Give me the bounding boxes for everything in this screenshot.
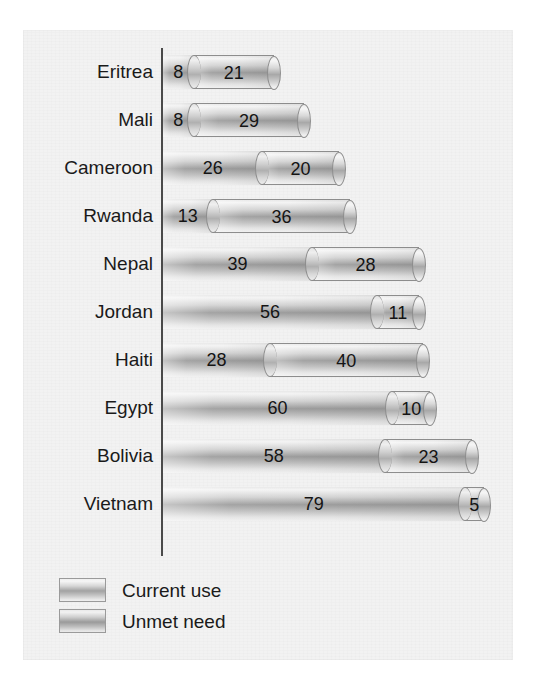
bar-row: Mali829 (23, 96, 513, 144)
legend-item-current-use: Current use (59, 575, 359, 606)
bar-segment-unmet-need: 11 (377, 295, 419, 329)
legend-swatch-unmet-need (59, 609, 106, 633)
bar-value-unmet-need: 23 (385, 440, 473, 474)
bar-row: Haiti2840 (23, 336, 513, 384)
category-label: Rwanda (83, 192, 161, 240)
bar-segment-current-use: 28 (163, 343, 270, 377)
bar-segment-unmet-need: 40 (270, 343, 423, 377)
bar-segment-current-use: 39 (163, 247, 312, 281)
category-label: Vietnam (84, 480, 161, 528)
bar-row: Jordan5611 (23, 288, 513, 336)
bar-value-current-use: 28 (163, 343, 270, 377)
bar-segment-unmet-need: 10 (392, 391, 430, 425)
bar-value-unmet-need: 40 (270, 344, 423, 378)
legend-label-unmet-need: Unmet need (122, 606, 226, 637)
chart-legend: Current use Unmet need (59, 575, 359, 637)
category-label: Bolivia (97, 432, 161, 480)
bar-segment-unmet-need: 20 (262, 151, 338, 185)
bar-row: Eritrea821 (23, 48, 513, 96)
bar-value-unmet-need: 21 (194, 56, 274, 90)
bar-segment-current-use: 60 (163, 391, 392, 425)
bar-value-unmet-need: 20 (262, 152, 338, 186)
bar-segment-current-use: 56 (163, 295, 377, 329)
bar-row: Egypt6010 (23, 384, 513, 432)
bar-value-current-use: 60 (163, 391, 392, 425)
legend-swatch-current-use (59, 578, 106, 602)
bar-segment-unmet-need: 21 (194, 55, 274, 89)
bar-value-current-use: 39 (163, 247, 312, 281)
bar-segment-unmet-need: 23 (385, 439, 473, 473)
category-label: Mali (118, 96, 161, 144)
legend-item-unmet-need: Unmet need (59, 606, 359, 637)
bar-segment-unmet-need: 5 (465, 487, 484, 521)
bar-value-unmet-need: 28 (312, 248, 419, 282)
bar-value-unmet-need: 10 (392, 392, 430, 426)
bar-row: Bolivia5823 (23, 432, 513, 480)
bar-segment-unmet-need: 29 (194, 103, 305, 137)
chart-figure: Eritrea821Mali829Cameroon2620Rwanda1336N… (23, 30, 513, 660)
legend-label-current-use: Current use (122, 575, 221, 606)
category-label: Nepal (103, 240, 161, 288)
bar-row: Cameroon2620 (23, 144, 513, 192)
bar-value-current-use: 26 (163, 151, 262, 185)
bar-row: Vietnam795 (23, 480, 513, 528)
bar-value-current-use: 56 (163, 295, 377, 329)
bar-value-current-use: 79 (163, 487, 465, 521)
bar-value-current-use: 58 (163, 439, 385, 473)
bar-value-unmet-need: 36 (213, 200, 351, 234)
bar-segment-unmet-need: 36 (213, 199, 351, 233)
category-label: Egypt (104, 384, 161, 432)
bar-value-unmet-need: 29 (194, 104, 305, 138)
bar-row: Rwanda1336 (23, 192, 513, 240)
bar-row: Nepal3928 (23, 240, 513, 288)
plot-area: Eritrea821Mali829Cameroon2620Rwanda1336N… (23, 30, 513, 560)
bar-segment-current-use: 79 (163, 487, 465, 521)
bar-value-unmet-need: 5 (465, 488, 484, 522)
bar-value-unmet-need: 11 (377, 296, 419, 330)
category-label: Eritrea (97, 48, 161, 96)
bar-segment-current-use: 26 (163, 151, 262, 185)
bar-segment-unmet-need: 28 (312, 247, 419, 281)
bar-segment-current-use: 58 (163, 439, 385, 473)
category-label: Jordan (95, 288, 161, 336)
category-label: Haiti (115, 336, 161, 384)
category-label: Cameroon (64, 144, 161, 192)
